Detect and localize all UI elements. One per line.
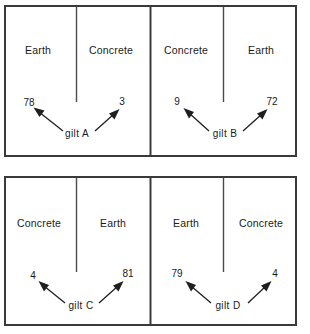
pen-test-preference-diagram: Earth Concrete Concrete Earth 78 3 gilt … [0,0,310,334]
panel-d-left-value: 79 [171,268,183,279]
panel-d-left-material-label: Earth [173,217,199,229]
panel-a-right-material-label: Concrete [89,44,133,56]
bottom-box-group: Concrete Earth Earth Concrete 4 81 gilt … [5,177,296,325]
panel-b-left-material-label: Concrete [164,44,208,56]
panel-c-left-material-label: Concrete [17,217,61,229]
panel-b-left-value: 9 [174,96,180,107]
panel-c-left-value: 4 [30,270,36,281]
panel-b-right-value: 72 [266,96,278,107]
diagram-canvas: Earth Concrete Concrete Earth 78 3 gilt … [0,0,310,334]
panel-d-right-value: 4 [272,268,278,279]
panel-d-right-material-label: Concrete [239,217,283,229]
panel-d-gilt-label: gilt D [215,300,240,311]
panel-c-right-value: 81 [122,268,134,279]
top-box-group: Earth Concrete Concrete Earth 78 3 gilt … [5,6,296,156]
panel-a-right-value: 3 [119,96,125,107]
panel-b-gilt-label: gilt B [213,128,238,139]
panel-a-gilt-label: gilt A [65,128,89,139]
panel-c-gilt-label: gilt C [68,300,93,311]
panel-c-right-material-label: Earth [100,217,126,229]
panel-a-left-value: 78 [23,97,35,108]
panel-a-left-material-label: Earth [25,44,51,56]
panel-b-right-material-label: Earth [248,44,274,56]
